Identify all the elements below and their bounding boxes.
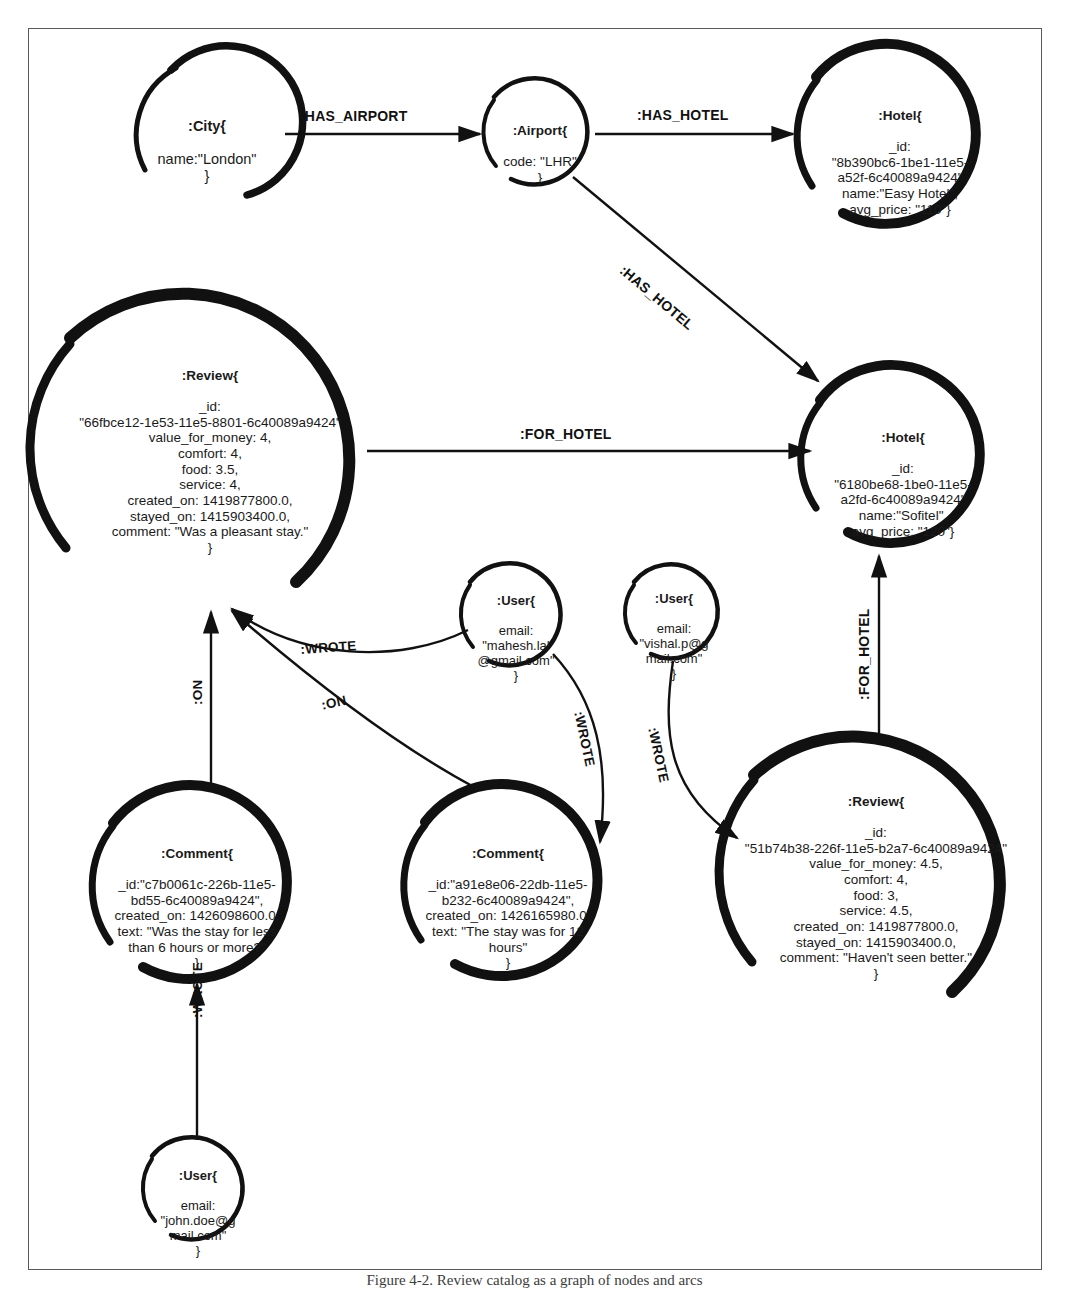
circle-review-pleasant: [30, 294, 349, 582]
circle-comment-six-hours: [92, 785, 287, 979]
edge-line-wrote-review-better: [669, 661, 737, 838]
edge-label-has-hotel-easy: :HAS_HOTEL: [637, 107, 728, 123]
edge-label-for-hotel-top: :FOR_HOTEL: [520, 426, 611, 442]
circle-user-vishal: [625, 564, 718, 658]
circle-comment-twelve-hours: [404, 784, 598, 976]
circle-hotel-sofitel: [801, 365, 980, 543]
circle-user-john: [143, 1137, 243, 1239]
edge-label-on-review-left: :ON: [190, 680, 205, 705]
circle-airport-lhr: [483, 78, 587, 184]
circle-review-better: [719, 737, 1000, 992]
circle-hotel-easy: [797, 44, 976, 224]
circle-user-mahesh: [461, 563, 561, 665]
graph-edges: [197, 134, 879, 1140]
circle-city-london: [136, 46, 302, 195]
figure-caption: Figure 4-2. Review catalog as a graph of…: [0, 1272, 1069, 1292]
edge-label-for-hotel-bottom: :FOR_HOTEL: [856, 609, 872, 700]
node-circles: [30, 44, 1000, 1239]
edge-line-has-hotel-sofitel: [573, 177, 818, 381]
figure-page: :City{ name:"London" } :Airport{ code: "…: [0, 0, 1069, 1292]
edge-label-has-airport: :HAS_AIRPORT: [300, 108, 407, 124]
graph-canvas: [0, 0, 1069, 1292]
edge-label-wrote-comment-six-hours: :WROTE: [190, 962, 205, 1018]
